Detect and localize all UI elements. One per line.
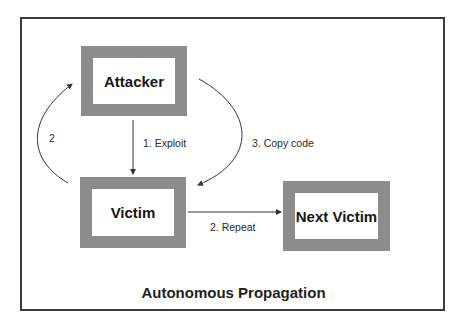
node-attacker-label: Attacker <box>104 73 164 90</box>
edge-label-copy-code: 3. Copy code <box>252 137 314 149</box>
edge-label-exploit: 1. Exploit <box>143 137 186 149</box>
edges-layer <box>0 0 467 326</box>
edge-label-return: 2 <box>49 132 55 144</box>
node-attacker: Attacker <box>81 46 187 116</box>
node-next-victim-label: Next Victim <box>296 208 377 225</box>
node-victim: Victim <box>80 177 186 248</box>
diagram-caption: Autonomous Propagation <box>0 284 467 301</box>
node-victim-label: Victim <box>111 204 156 221</box>
edge-copy-code-arc <box>198 79 242 185</box>
edge-label-repeat: 2. Repeat <box>210 221 256 233</box>
node-next-victim: Next Victim <box>283 181 390 251</box>
